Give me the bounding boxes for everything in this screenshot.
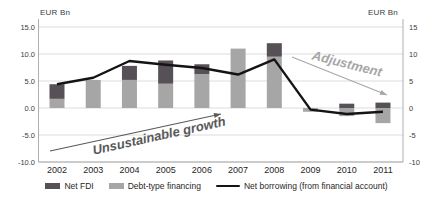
bar-debt-2005 <box>158 84 173 108</box>
annotation-unsustainable-growth: Unsustainable growth <box>91 114 227 158</box>
adjustment-arrowhead-icon <box>380 90 387 95</box>
left-tick-15.0: 15.0 <box>20 23 35 32</box>
bar-net-fdi-2010 <box>339 104 354 108</box>
financing-chart: 15.010.05.00.0-5.0-10.0151050-5-10Unsust… <box>0 0 433 203</box>
x-label-2011: 2011 <box>373 165 392 175</box>
net-borrowing-line-swatch-icon <box>216 185 240 187</box>
left-tick-10.0: 10.0 <box>20 50 35 59</box>
right-tick--10: -10 <box>409 158 420 167</box>
x-label-2007: 2007 <box>228 165 248 175</box>
x-label-2002: 2002 <box>47 165 67 175</box>
bar-debt-2002 <box>50 99 65 108</box>
bar-debt-2007 <box>231 49 246 108</box>
x-label-2004: 2004 <box>119 165 139 175</box>
bar-debt-2008 <box>267 57 282 108</box>
x-label-2006: 2006 <box>192 165 212 175</box>
right-tick--5: -5 <box>409 131 416 140</box>
bar-debt-2006 <box>194 74 209 108</box>
bar-debt-2003 <box>86 80 101 108</box>
bar-debt-2004 <box>122 80 137 108</box>
left-axis-unit-label: EUR Bn <box>40 8 70 17</box>
x-label-2010: 2010 <box>337 165 357 175</box>
legend-label-net-borrowing: Net borrowing (from financial account) <box>244 181 388 191</box>
bar-net-fdi-2011 <box>375 103 390 108</box>
x-label-2009: 2009 <box>301 165 321 175</box>
bar-net-fdi-2004 <box>122 66 137 80</box>
right-tick-10: 10 <box>409 50 417 59</box>
debt-financing-swatch-icon <box>109 183 124 189</box>
right-tick-5: 5 <box>409 77 413 86</box>
net-fdi-swatch-icon <box>45 183 60 189</box>
legend-label-debt-financing: Debt-type financing <box>128 181 201 191</box>
x-label-2003: 2003 <box>83 165 103 175</box>
legend-label-net-fdi: Net FDI <box>64 181 93 191</box>
left-tick-0.0: 0.0 <box>25 104 35 113</box>
left-tick--5.0: -5.0 <box>22 131 35 140</box>
x-label-2008: 2008 <box>264 165 284 175</box>
right-tick-15: 15 <box>409 23 417 32</box>
legend-item-net-borrowing: Net borrowing (from financial account) <box>216 181 388 191</box>
bar-net-fdi-2008 <box>267 43 282 57</box>
left-tick--10.0: -10.0 <box>18 158 35 167</box>
annotation-adjustment: Adjustment <box>310 47 385 79</box>
legend: Net FDI Debt-type financing Net borrowin… <box>0 181 433 191</box>
left-tick-5.0: 5.0 <box>25 77 35 86</box>
chart-figure: 15.010.05.00.0-5.0-10.0151050-5-10Unsust… <box>0 0 433 203</box>
bar-debt-2011 <box>375 108 390 123</box>
legend-item-debt-financing: Debt-type financing <box>109 181 201 191</box>
legend-item-net-fdi: Net FDI <box>45 181 93 191</box>
x-label-2005: 2005 <box>156 165 176 175</box>
right-tick-0: 0 <box>409 104 413 113</box>
right-axis-unit-label: EUR Bn <box>368 8 398 17</box>
bar-net-fdi-2002 <box>50 84 65 99</box>
